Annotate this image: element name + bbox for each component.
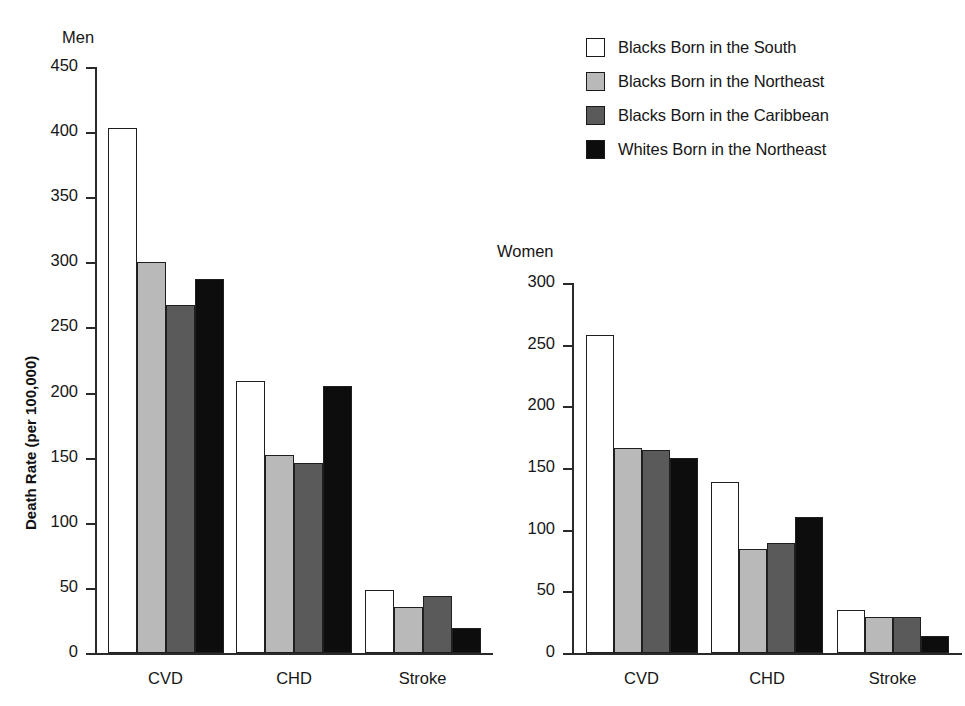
y-tick-label-women-150: 150 <box>487 457 555 476</box>
bar-women-cvd-s3 <box>670 458 698 653</box>
y-tick-women-0 <box>563 653 574 655</box>
x-axis-line-women <box>572 653 962 655</box>
chart-panel-women: Women 050100150200250300CVDCHDStroke <box>0 0 965 706</box>
plot-area-women: 050100150200250300CVDCHDStroke <box>0 0 965 706</box>
y-tick-label-women-200: 200 <box>487 395 555 414</box>
bar-women-cvd-s1 <box>614 448 642 653</box>
bar-women-chd-s3 <box>795 517 823 653</box>
y-tick-women-300 <box>563 283 574 285</box>
y-tick-label-women-100: 100 <box>487 519 555 538</box>
x-category-label-women-chd: CHD <box>707 669 827 688</box>
y-tick-women-200 <box>563 406 574 408</box>
y-tick-women-50 <box>563 591 574 593</box>
bar-women-chd-s2 <box>767 543 795 653</box>
bar-women-cvd-s0 <box>586 335 614 653</box>
chart-figure: Blacks Born in the SouthBlacks Born in t… <box>0 0 965 706</box>
y-tick-label-women-50: 50 <box>487 580 555 599</box>
bar-women-chd-s1 <box>739 549 767 653</box>
y-tick-women-100 <box>563 530 574 532</box>
bar-women-stroke-s1 <box>865 617 893 653</box>
y-tick-women-250 <box>563 345 574 347</box>
bar-women-stroke-s3 <box>921 636 949 653</box>
bar-women-stroke-s2 <box>893 617 921 653</box>
y-tick-label-women-0: 0 <box>487 642 555 661</box>
y-tick-label-women-300: 300 <box>487 272 555 291</box>
x-category-label-women-stroke: Stroke <box>833 669 953 688</box>
bar-women-cvd-s2 <box>642 450 670 654</box>
x-category-label-women-cvd: CVD <box>582 669 702 688</box>
bar-women-stroke-s0 <box>837 610 865 653</box>
y-tick-label-women-250: 250 <box>487 334 555 353</box>
y-tick-women-150 <box>563 468 574 470</box>
bar-women-chd-s0 <box>711 482 739 653</box>
